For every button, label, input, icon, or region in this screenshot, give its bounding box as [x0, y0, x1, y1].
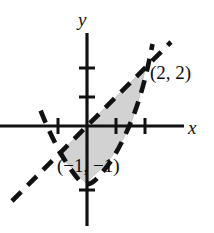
lower-intersection-label: (−1, −1) — [57, 155, 120, 177]
upper-intersection-label: (2, 2) — [150, 62, 191, 84]
graph-figure: x y (2, 2) (−1, −1) — [0, 0, 214, 233]
y-axis-label: y — [76, 9, 87, 30]
x-axis-label: x — [187, 117, 197, 138]
graph-canvas: x y (2, 2) (−1, −1) — [0, 0, 214, 233]
